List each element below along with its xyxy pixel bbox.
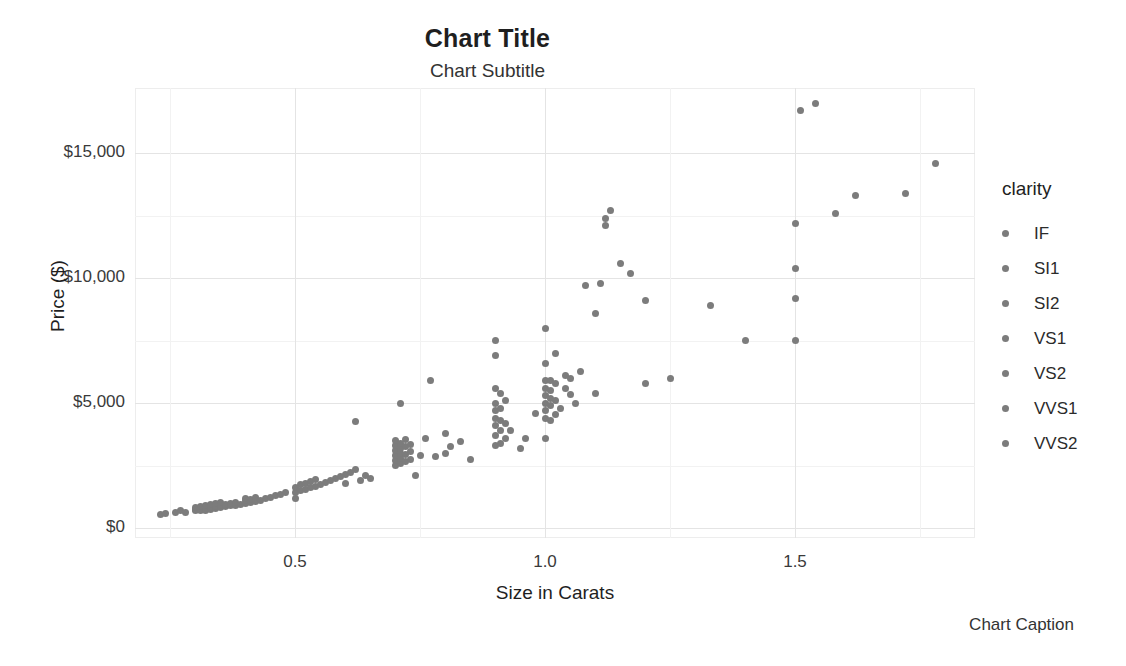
data-point [602,222,609,229]
data-point [932,160,939,167]
scatter-chart: Chart Title Chart Subtitle $0$5,000$10,0… [0,0,1126,666]
data-point [162,510,169,517]
data-point [642,297,649,304]
chart-title: Chart Title [0,24,975,53]
data-point [502,420,509,427]
gridline-vertical-major [295,88,296,538]
gridline-horizontal-minor [135,216,975,217]
data-point [467,456,474,463]
y-axis-title: Price ($) [47,216,69,376]
data-point [497,427,504,434]
legend-marker-icon [990,370,1020,377]
legend-swatch [1002,300,1009,307]
x-axis-tick-label: 1.0 [505,552,585,572]
data-point [707,302,714,309]
data-point [792,265,799,272]
data-point [542,325,549,332]
data-point [592,310,599,317]
legend-item-label: VS2 [1034,364,1066,384]
data-point [797,107,804,114]
legend-marker-icon [990,440,1020,447]
data-point [427,377,434,384]
legend-item-label: IF [1034,224,1049,244]
gridline-horizontal-minor [135,466,975,467]
legend-swatch [1002,370,1009,377]
data-point [592,390,599,397]
legend-item[interactable]: IF [990,216,1126,251]
data-point [447,443,454,450]
data-point [397,400,404,407]
data-point [562,385,569,392]
gridline-horizontal-major [135,278,975,279]
data-point [547,417,554,424]
gridline-horizontal-major [135,528,975,529]
y-axis-tick-label: $5,000 [15,392,125,412]
gridline-horizontal-major [135,153,975,154]
data-point [282,489,289,496]
data-point [832,210,839,217]
data-point [547,387,554,394]
gridline-vertical-minor [670,88,671,538]
data-point [552,350,559,357]
data-point [342,480,349,487]
data-point [542,435,549,442]
data-point [412,472,419,479]
data-point [367,475,374,482]
legend-marker-icon [990,230,1020,237]
legend-item[interactable]: VVS1 [990,391,1126,426]
data-point [502,397,509,404]
legend-item[interactable]: VS2 [990,356,1126,391]
legend-marker-icon [990,300,1020,307]
data-point [792,220,799,227]
legend: clarity IFSI1SI2VS1VS2VVS1VVS2 [990,178,1126,461]
data-point [577,368,584,375]
x-axis-tick-label: 0.5 [255,552,335,572]
data-point [292,495,299,502]
data-point [812,100,819,107]
data-point [352,466,359,473]
data-point [552,411,559,418]
legend-item[interactable]: SI2 [990,286,1126,321]
chart-subtitle: Chart Subtitle [0,60,975,82]
data-point [522,435,529,442]
data-point [542,360,549,367]
legend-item[interactable]: VVS2 [990,426,1126,461]
legend-item-label: VVS1 [1034,399,1077,419]
chart-caption: Chart Caption [969,615,1074,635]
data-point [597,280,604,287]
data-point [502,435,509,442]
data-point [422,435,429,442]
x-axis-tick-label: 1.5 [755,552,835,572]
legend-item-label: VS1 [1034,329,1066,349]
legend-marker-icon [990,265,1020,272]
data-point [567,375,574,382]
data-point [792,295,799,302]
data-point [557,405,564,412]
gridline-vertical-major [545,88,546,538]
data-point [792,337,799,344]
data-point [642,380,649,387]
data-point [492,337,499,344]
plot-area [135,88,975,538]
data-point [852,192,859,199]
legend-swatch [1002,405,1009,412]
y-axis-tick-label: $0 [15,517,125,537]
data-point [442,450,449,457]
x-axis-title: Size in Carats [135,582,975,604]
data-point [417,452,424,459]
legend-item-label: VVS2 [1034,434,1077,454]
gridline-vertical-minor [920,88,921,538]
legend-swatch [1002,335,1009,342]
legend-item[interactable]: SI1 [990,251,1126,286]
legend-marker-icon [990,335,1020,342]
gridline-vertical-minor [420,88,421,538]
data-point [517,445,524,452]
legend-rows: IFSI1SI2VS1VS2VVS1VVS2 [990,216,1126,461]
legend-swatch [1002,265,1009,272]
data-point [532,410,539,417]
legend-item[interactable]: VS1 [990,321,1126,356]
data-point [407,448,414,455]
y-axis-tick-label: $15,000 [15,142,125,162]
data-point [602,215,609,222]
legend-marker-icon [990,405,1020,412]
